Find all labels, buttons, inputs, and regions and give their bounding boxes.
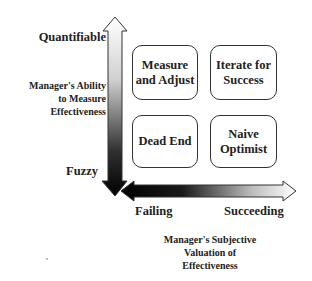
y-axis-title-line: to Measure — [2, 92, 106, 105]
quadrant-naive-optimist: Naive Optimist — [210, 115, 277, 168]
quadrant-label-line: and Adjust — [136, 73, 195, 88]
y-axis-title-line: Manager's Ability — [2, 79, 106, 92]
quadrant-measure-and-adjust: Measure and Adjust — [132, 45, 198, 100]
scan-artifact — [46, 258, 48, 260]
y-axis-bottom-label: Fuzzy — [2, 164, 98, 179]
x-axis-title: Manager's Subjective Valuation of Effect… — [150, 233, 270, 272]
x-axis-right-label: Succeeding — [224, 204, 284, 219]
x-axis-left-label: Failing — [135, 204, 173, 219]
quadrant-label-line: Measure — [136, 58, 195, 73]
quadrant-dead-end: Dead End — [132, 115, 198, 168]
x-axis-title-line: Effectiveness — [150, 259, 270, 272]
quadrant-iterate-for-success: Iterate for Success — [210, 45, 277, 100]
quadrant-label-line: Iterate for — [216, 58, 271, 73]
y-axis-top-label: Quantifiable — [2, 30, 106, 45]
quadrant-label-line: Naive — [220, 127, 267, 142]
y-axis-title-line: Effectiveness — [2, 105, 106, 118]
horizontal-axis-arrow — [121, 181, 296, 201]
quadrant-label-line: Success — [216, 73, 271, 88]
quadrant-label-line: Optimist — [220, 142, 267, 157]
x-axis-title-line: Manager's Subjective — [150, 233, 270, 246]
y-axis-title: Manager's Ability to Measure Effectivene… — [2, 79, 106, 118]
quadrant-label-line: Dead End — [138, 134, 191, 149]
x-axis-title-line: Valuation of — [150, 246, 270, 259]
